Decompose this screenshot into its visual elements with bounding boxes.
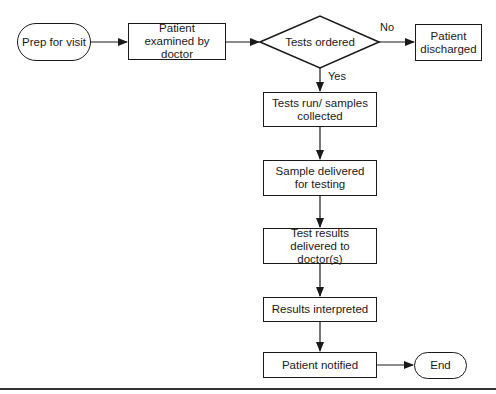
node-patient-examined: Patient examined by doctor — [128, 23, 226, 60]
node-label: Patient discharged — [420, 30, 477, 56]
node-label: Sample delivered for testing — [268, 165, 372, 191]
edge-label-yes: Yes — [328, 70, 346, 82]
node-label: Test results delivered to doctor(s) — [268, 227, 372, 266]
node-prep-for-visit: Prep for visit — [17, 23, 91, 61]
node-results-delivered: Test results delivered to doctor(s) — [263, 228, 377, 264]
node-label: Patient examined by doctor — [133, 22, 221, 61]
node-patient-notified: Patient notified — [263, 352, 377, 378]
node-label: Tests run/ samples collected — [268, 97, 372, 123]
edge-label-no: No — [380, 21, 394, 33]
node-results-interpreted: Results interpreted — [263, 297, 377, 322]
node-label: Prep for visit — [22, 36, 86, 49]
node-label: End — [430, 359, 450, 372]
caption-divider — [0, 388, 496, 390]
node-label: Tests ordered — [285, 36, 355, 48]
decision-tests-ordered: Tests ordered — [270, 34, 370, 50]
node-sample-delivered: Sample delivered for testing — [263, 160, 377, 196]
node-end: End — [414, 352, 467, 379]
node-patient-discharged: Patient discharged — [415, 24, 482, 61]
node-tests-run: Tests run/ samples collected — [263, 92, 377, 127]
node-label: Results interpreted — [272, 303, 369, 316]
node-label: Patient notified — [282, 359, 358, 372]
